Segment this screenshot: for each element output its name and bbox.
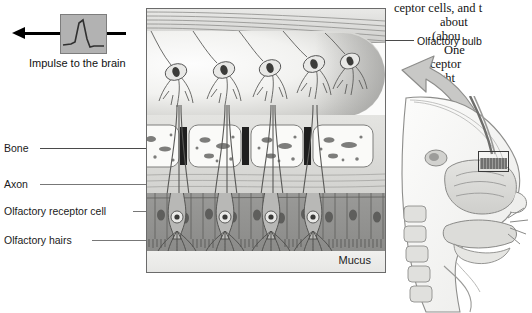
body-text-line-3: (abou	[432, 30, 460, 43]
label-olfactory-hairs: Olfactory hairs	[4, 235, 72, 246]
sagittal-head-section	[400, 96, 532, 313]
figure-root: Impulse to the brain Bone Axon Olfactory…	[0, 0, 532, 313]
head-anatomy-icon	[400, 96, 532, 313]
action-potential-spike-icon	[61, 15, 106, 53]
label-mucus: Mucus	[339, 254, 371, 266]
leader-olfactory-bulb	[385, 40, 414, 41]
olfactory-epithelium-panel: Mucus	[146, 8, 386, 273]
focus-region-box	[478, 151, 509, 172]
epithelium-hatch-icon	[479, 152, 508, 171]
leader-bone	[40, 148, 146, 149]
impulse-waveform-box	[60, 14, 107, 54]
label-olfactory-receptor-cell: Olfactory receptor cell	[4, 206, 106, 217]
axon-bundles-through-bone-icon	[147, 105, 385, 201]
label-axon: Axon	[4, 179, 28, 190]
body-text-line-1: ceptor cells, and t	[394, 2, 482, 15]
impulse-label: Impulse to the brain	[29, 57, 126, 69]
body-text-line-2: about	[440, 16, 468, 29]
leader-axon	[40, 184, 146, 185]
impulse-arrow-head-icon	[12, 27, 25, 39]
label-bone: Bone	[4, 143, 29, 154]
